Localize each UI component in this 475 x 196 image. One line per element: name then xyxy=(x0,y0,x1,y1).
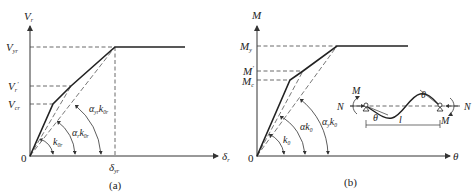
moment-rotation-curve xyxy=(257,46,408,156)
rotation-left-label: θ xyxy=(373,112,378,123)
axial-force-right-label: N xyxy=(463,101,472,112)
angle-label-ayr-k0r: αyrk0r xyxy=(89,103,109,115)
tick-delta-yr: δyr xyxy=(109,161,120,174)
caption-a: (a) xyxy=(109,179,122,192)
tick-mc: Mc xyxy=(241,75,254,88)
diagram-canvas: Vr Vyr Vr' Vcr 0 δyr δr k0r αrk0r αyrk0r… xyxy=(0,0,475,196)
arc-start-marker xyxy=(57,121,61,125)
x-axis-label: θ xyxy=(453,150,459,162)
support-right-icon xyxy=(437,107,443,111)
moment-right-label: M xyxy=(440,115,450,126)
rotation-right-label: θ xyxy=(421,89,426,100)
panel-a: Vr Vyr Vr' Vcr 0 δyr δr k0r αrk0r αyrk0r… xyxy=(6,10,230,192)
tick-vyr: Vyr xyxy=(6,41,18,54)
tick-vcr: Vcr xyxy=(8,98,20,111)
beam-column-inset: N N M M θ θ l xyxy=(336,85,472,128)
length-label: l xyxy=(399,114,402,125)
caption-b: (b) xyxy=(344,176,357,189)
y-axis-label: M xyxy=(251,9,262,21)
tick-vr-prime: Vr' xyxy=(8,80,19,93)
angle-label-ar-k0r: αrk0r xyxy=(72,127,90,139)
y-axis-label: Vr xyxy=(24,10,34,23)
secant-ay xyxy=(257,46,337,156)
angle-label-k0r: k0r xyxy=(53,136,63,148)
secant-ayr xyxy=(30,47,115,156)
arc-start-marker xyxy=(300,99,304,103)
secant-ar xyxy=(30,86,71,156)
x-axis-label: δr xyxy=(222,150,230,163)
moment-left-label: M xyxy=(351,85,361,96)
panel-b: M My M' Mc 0 θ k0 αk0 αyk0 (b) xyxy=(239,9,472,189)
angle-label-k0: k0 xyxy=(283,134,290,146)
origin-label: 0 xyxy=(248,152,254,164)
angle-label-ay-k0: αyk0 xyxy=(322,116,337,128)
origin-label: 0 xyxy=(21,152,27,164)
tick-my: My xyxy=(239,40,252,53)
axial-force-left-label: N xyxy=(336,101,345,112)
angle-label-a-k0: αk0 xyxy=(300,121,313,133)
